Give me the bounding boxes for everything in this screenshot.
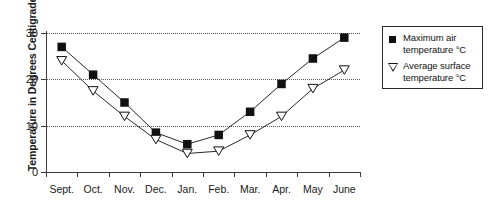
legend-label: Maximum air temperature °C <box>403 32 466 55</box>
filled-square-icon <box>387 33 403 46</box>
legend-label-line1: Average surface <box>403 60 471 71</box>
legend-item-average-surface-temperature: Average surface temperature °C <box>387 60 478 83</box>
x-tick-label: Dec. <box>145 183 167 195</box>
series-plot <box>46 33 360 172</box>
data-point-marker <box>309 54 318 63</box>
y-tick-label: 0 <box>32 166 38 178</box>
chart-legend: Maximum air temperature °C Average surfa… <box>382 26 483 89</box>
chart-screenshot: Temperarure in Degrees Centigrade 010203… <box>0 0 491 210</box>
x-tick-mark <box>297 172 298 177</box>
data-point-marker <box>214 131 223 140</box>
plot-area: 0102030 Sept.Oct.Nov.Dec.Jan.Feb.Mar.Apr… <box>46 33 360 172</box>
x-tick-label: Apr. <box>272 183 291 195</box>
data-point-marker <box>57 43 65 52</box>
open-triangle-down-icon <box>387 61 403 74</box>
x-tick-mark <box>77 172 78 177</box>
legend-label-line1: Maximum air <box>403 32 456 43</box>
data-point-marker <box>246 108 255 117</box>
legend-item-maximum-air-temperature: Maximum air temperature °C <box>387 32 478 55</box>
data-point-marker <box>339 66 349 75</box>
data-point-marker <box>183 140 192 149</box>
x-tick-label: Sept. <box>49 183 74 195</box>
data-point-marker <box>277 80 286 89</box>
x-tick-label: Nov. <box>114 183 135 195</box>
y-tick-label: 10 <box>26 120 38 132</box>
x-tick-mark <box>234 172 235 177</box>
legend-label-line2: temperature °C <box>403 72 466 83</box>
x-tick-label: May <box>303 183 323 195</box>
x-tick-label: Mar. <box>240 183 260 195</box>
x-tick-mark <box>360 172 361 177</box>
x-tick-label: June <box>333 183 356 195</box>
data-point-marker <box>89 70 98 79</box>
x-tick-mark <box>329 172 330 177</box>
x-tick-mark <box>109 172 110 177</box>
x-tick-label: Feb. <box>208 183 229 195</box>
x-tick-label: Oct. <box>83 183 102 195</box>
data-point-marker <box>151 135 161 144</box>
data-point-marker <box>277 112 287 121</box>
legend-label-line2: temperature °C <box>403 44 466 55</box>
data-point-marker <box>120 98 129 107</box>
y-tick-label: 20 <box>26 73 38 85</box>
data-point-marker <box>340 33 349 42</box>
x-tick-mark <box>203 172 204 177</box>
x-tick-mark <box>266 172 267 177</box>
y-tick-label: 30 <box>26 27 38 39</box>
x-tick-mark <box>46 172 47 177</box>
series-line <box>62 38 345 145</box>
legend-label: Average surface temperature °C <box>403 60 471 83</box>
data-point-marker <box>245 131 255 140</box>
x-tick-label: Jan. <box>177 183 197 195</box>
x-tick-mark <box>140 172 141 177</box>
x-tick-mark <box>172 172 173 177</box>
